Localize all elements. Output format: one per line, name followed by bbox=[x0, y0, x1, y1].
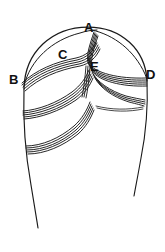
label-d: D bbox=[146, 68, 155, 81]
figure-container: A B C D E bbox=[0, 0, 165, 252]
label-c: C bbox=[58, 48, 67, 61]
anatomical-diagram-svg bbox=[0, 0, 165, 252]
label-b: B bbox=[9, 73, 18, 86]
label-e: E bbox=[90, 60, 99, 73]
label-a: A bbox=[84, 21, 93, 34]
